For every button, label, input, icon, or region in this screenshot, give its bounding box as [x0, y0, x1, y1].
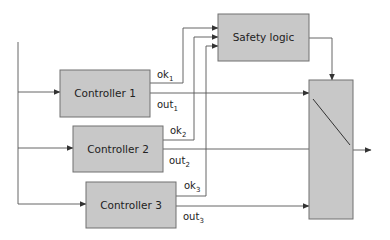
signal-label-ok3: ok3	[184, 180, 200, 194]
safety-logic-label: Safety logic	[233, 31, 295, 43]
controller-3-label: Controller 3	[100, 199, 162, 211]
safety-to-switch-wire	[309, 38, 332, 80]
controller-2-label: Controller 2	[87, 143, 149, 155]
signal-label-ok1: ok1	[157, 69, 173, 83]
redundant-controller-diagram: Controller 1 Controller 2 Controller 3 S…	[0, 0, 390, 240]
signal-label-out3: out3	[183, 211, 204, 225]
signal-label-out2: out2	[169, 155, 190, 169]
ok3-wire	[176, 46, 218, 196]
safety-logic-block: Safety logic	[218, 14, 309, 61]
controller-2-block: Controller 2	[73, 126, 163, 172]
switch-block	[309, 80, 353, 219]
signal-label-out1: out1	[157, 99, 178, 113]
controller-1-label: Controller 1	[74, 87, 136, 99]
controller-3-block: Controller 3	[86, 182, 176, 228]
signal-label-ok2: ok2	[170, 125, 186, 139]
controller-1-block: Controller 1	[60, 70, 150, 117]
